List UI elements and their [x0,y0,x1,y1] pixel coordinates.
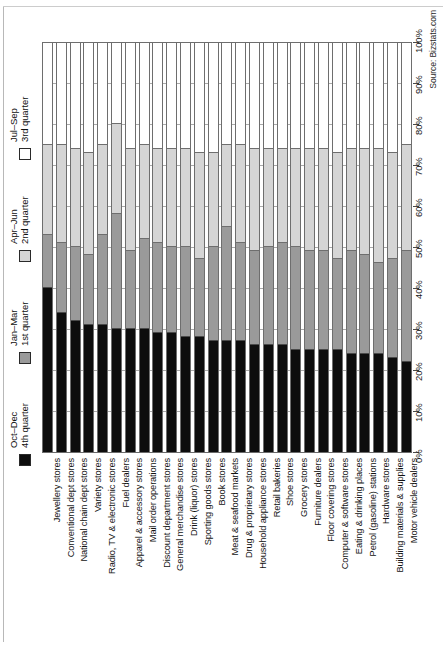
segment-q3 [222,42,231,145]
legend-swatch-q3 [19,148,31,160]
category-label: Shoe stores [275,456,288,644]
segment-q1 [333,259,342,349]
legend-item-q1[interactable]: 1st quarterJan–Mar [8,264,42,364]
bar-top-cap [180,42,191,43]
bar-top-cap [221,42,232,43]
legend-text-q1: 1st quarterJan–Mar [8,264,42,346]
segment-q3 [291,42,300,149]
legend-item-q3[interactable]: 3rd quarterJul–Sep [8,60,42,160]
bar-furniture-dealers[interactable] [304,42,315,452]
bar-eating-drinking-places[interactable] [346,42,357,452]
segment-q2 [278,149,287,243]
segment-q3 [360,42,369,149]
legend-item-q4[interactable]: 4th quarterOct–Dec [8,366,42,466]
segment-q4 [112,329,121,452]
segment-q2 [112,124,121,214]
bar-drug-proprietary-stores[interactable] [235,42,246,452]
segment-q4 [57,313,66,452]
bar-conventional-dept-stores[interactable] [56,42,67,452]
bar-book-stores[interactable] [208,42,219,452]
segment-q3 [71,42,80,149]
bar-drink-liquor-stores[interactable] [180,42,191,452]
bar-radio-tv-electronic-stores[interactable] [97,42,108,452]
bar-retail-bakeries[interactable] [263,42,274,452]
segment-q2 [333,153,342,260]
category-label: Hardware stores [371,456,384,644]
bar-top-cap [125,42,136,43]
chart-legend: 1st quarterJan–Mar2nd quarterApr–Jun3rd … [8,42,42,452]
bar-top-cap [208,42,219,43]
bar-top-cap [56,42,67,43]
bar-shoe-stores[interactable] [277,42,288,452]
segment-q1 [305,251,314,349]
bar-computer-software-stores[interactable] [332,42,343,452]
axis-label-10: 10% [413,391,426,431]
bar-mail-order-operations[interactable] [139,42,150,452]
category-label: Furniture dealers [303,456,316,644]
segment-q2 [291,149,300,247]
legend-swatch-q4 [19,454,31,466]
segment-q1 [195,259,204,337]
bar-jewellery-stores[interactable] [42,42,53,452]
segment-q4 [360,354,369,452]
legend-item-q2[interactable]: 2nd quarterApr–Jun [8,162,42,262]
segment-q1 [347,251,356,354]
bar-petrol-gasoline-stations[interactable] [359,42,370,452]
category-label: Sporting goods stores [193,456,206,644]
segment-q2 [388,153,397,260]
axis-label-20: 20% [413,350,426,390]
axis-label-50: 50% [413,227,426,267]
chart-figure: 1st quarterJan–Mar2nd quarterApr–Jun3rd … [0,0,446,647]
bar-general-merchandise-stores[interactable] [166,42,177,452]
page-border-top [3,6,443,7]
segment-q2 [84,153,93,256]
segment-q1 [360,255,369,353]
category-label: Apparel & accessory stores [124,456,137,644]
category-label: Book stores [207,456,220,644]
legend-label-secondary: Oct–Dec [8,412,19,448]
legend-label-secondary: Jul–Sep [8,108,19,142]
segment-q3 [305,42,314,149]
segment-q3 [195,42,204,153]
category-label: Motor vehicle dealers [399,456,412,644]
bar-sporting-goods-stores[interactable] [194,42,205,452]
bar-grocery-stores[interactable] [290,42,301,452]
segment-q4 [140,329,149,452]
segment-q2 [43,145,52,235]
bar-top-cap [152,42,163,43]
axis-label-60: 60% [413,186,426,226]
segment-q1 [278,243,287,346]
category-label: Radio, TV & electronic stores [97,456,110,644]
segment-q3 [388,42,397,153]
bar-national-chain-dept-stores[interactable] [70,42,81,452]
segment-q4 [305,350,314,453]
bar-meat-seafood-markets[interactable] [221,42,232,452]
segment-q3 [84,42,93,153]
segment-q1 [84,255,93,325]
bar-fuel-dealers[interactable] [111,42,122,452]
bar-top-cap [83,42,94,43]
bar-top-cap [346,42,357,43]
bar-top-cap [359,42,370,43]
bar-top-cap [277,42,288,43]
legend-label-secondary: Jan–Mar [8,310,19,346]
bar-floor-covering-stores[interactable] [318,42,329,452]
bar-variety-stores[interactable] [83,42,94,452]
bar-hardware-stores[interactable] [373,42,384,452]
segment-q1 [374,263,383,353]
bar-building-materials-supplies[interactable] [387,42,398,452]
bar-top-cap [235,42,246,43]
segment-q2 [236,145,245,243]
bar-motor-vehicle-dealers[interactable] [401,42,412,452]
bar-apparel-accessory-stores[interactable] [125,42,136,452]
bar-top-cap [332,42,343,43]
bar-top-cap [42,42,53,43]
legend-swatch-q2 [19,250,31,262]
category-label: Petrol (gasoline) stations [358,456,371,644]
bar-discount-department-stores[interactable] [152,42,163,452]
segment-q2 [319,149,328,252]
segment-q3 [319,42,328,149]
segment-q4 [71,321,80,452]
bar-household-appliance-stores[interactable] [249,42,260,452]
segment-q2 [195,153,204,260]
